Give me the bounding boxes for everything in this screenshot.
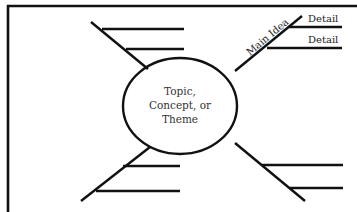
detail-label-2: Detail — [308, 34, 338, 45]
branch-top-right: Main Idea Detail Detail — [235, 13, 342, 71]
detail-label-1: Detail — [308, 13, 338, 24]
center-text-line-2: Concept, or — [149, 99, 212, 111]
branch-bottom-left — [81, 147, 180, 201]
branch-bottom-left-main-line — [81, 147, 150, 201]
center-text-line-1: Topic, — [164, 85, 196, 97]
center-text-line-3: Theme — [162, 113, 198, 125]
branch-bottom-right — [235, 143, 343, 201]
branch-bottom-right-main-line — [235, 143, 305, 201]
main-idea-label: Main Idea — [244, 16, 290, 57]
branch-top-left — [91, 22, 184, 69]
concept-map-diagram: Topic, Concept, or Theme Main Idea Detai… — [0, 0, 357, 212]
branch-top-right-main-line — [235, 16, 302, 71]
concept-map-canvas: Topic, Concept, or Theme Main Idea Detai… — [0, 0, 357, 212]
center-node: Topic, Concept, or Theme — [123, 58, 237, 154]
